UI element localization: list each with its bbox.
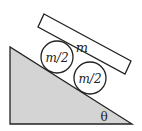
incline-diagram: m m/2 m/2 θ — [0, 0, 142, 131]
cylinder-top-mass-label: m/2 — [45, 51, 68, 65]
cylinder-bottom-mass-label: m/2 — [78, 72, 101, 86]
plank-mass-label: m — [76, 40, 88, 55]
angle-theta-label: θ — [100, 110, 107, 124]
